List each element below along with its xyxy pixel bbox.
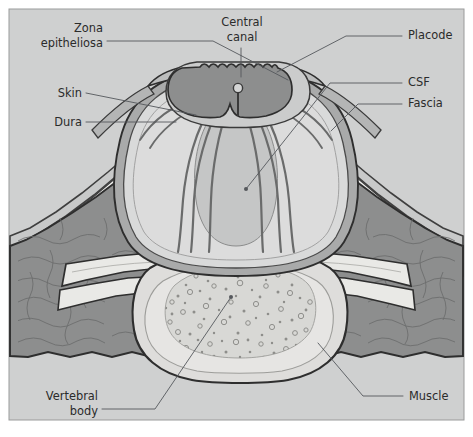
sac-inner-mass <box>195 109 278 246</box>
label-skin: Skin <box>58 86 82 100</box>
label-muscle: Muscle <box>409 389 448 403</box>
label-central-canal-line1: Central <box>221 15 262 29</box>
label-dura: Dura <box>54 115 82 129</box>
label-fascia: Fascia <box>408 96 443 110</box>
label-central-canal-line2: canal <box>227 30 258 44</box>
neural-placode <box>166 62 310 128</box>
label-vertebral-body-line1: Vertebral <box>46 389 98 403</box>
label-vertebral-body-line2: body <box>70 404 98 418</box>
label-placode: Placode <box>408 28 452 42</box>
myelomeningocele-diagram: Zona epitheliosa Central canal Placode S… <box>0 0 473 437</box>
anatomical-figure: Zona epitheliosa Central canal Placode S… <box>0 0 473 437</box>
leader-dot-vertebral-body <box>229 295 233 299</box>
label-zona-epitheliosa-line1: Zona <box>74 21 103 35</box>
label-csf: CSF <box>408 75 430 89</box>
central-canal <box>233 83 242 92</box>
leader-dot-csf <box>244 187 248 191</box>
label-zona-epitheliosa-line2: epitheliosa <box>41 36 103 50</box>
